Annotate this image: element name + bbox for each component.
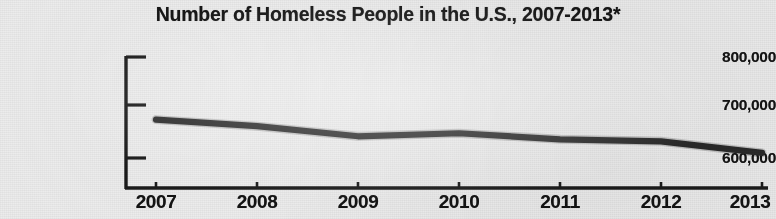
data-line-homeless-people [156, 120, 762, 153]
x-tick-label-2008: 2008 [237, 191, 278, 213]
x-tick-label-2012: 2012 [641, 191, 682, 213]
plot-area: 800,000 700,000 600,000 [0, 0, 776, 219]
x-tick-label-2010: 2010 [439, 191, 480, 213]
x-tick-label-2009: 2009 [338, 191, 379, 213]
x-tick-label-2013: 2013 [730, 191, 771, 213]
x-tick-label-2011: 2011 [540, 191, 580, 213]
chart-canvas [0, 0, 776, 219]
x-tick-label-2007: 2007 [136, 191, 177, 213]
chart-screenshot: Number of Homeless People in the U.S., 2… [0, 0, 776, 219]
